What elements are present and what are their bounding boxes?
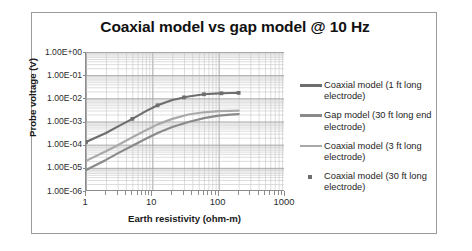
y-tick-mark: [83, 98, 86, 99]
x-tick-mark: [238, 191, 239, 195]
x-axis-label: Earth resistivity (ohm-m): [85, 213, 284, 224]
legend-line-icon: [300, 110, 322, 121]
x-tick-mark: [131, 191, 132, 195]
x-tick-mark: [171, 191, 172, 195]
series-marker-3: [237, 91, 241, 95]
legend-entry: Coaxial model (30 ft long electrode): [300, 171, 434, 193]
legend-label: Coaxial model (3 ft long electrode): [324, 141, 434, 163]
chart-title: Coaxial model vs gap model @ 10 Hz: [36, 18, 434, 36]
y-tick-label: 1.00E-02: [24, 93, 82, 103]
x-tick-mark: [207, 191, 208, 195]
legend-label: Coaxial model (30 ft long electrode): [324, 171, 434, 193]
series-marker-3: [86, 140, 88, 144]
y-tick-label: 1.00E-01: [24, 70, 82, 80]
x-tick-mark: [198, 191, 199, 195]
x-tick-mark: [191, 191, 192, 195]
x-tick-label: 1: [65, 196, 105, 207]
series-marker-3: [182, 95, 186, 99]
y-tick-mark: [83, 145, 86, 146]
legend-entry: Coaxial model (3 ft long electrode): [300, 141, 434, 163]
series-marker-3: [130, 117, 134, 121]
x-tick-mark: [258, 191, 259, 195]
x-tick-mark: [274, 191, 275, 195]
x-tick-label: 10: [131, 196, 171, 207]
x-tick-mark: [125, 191, 126, 195]
y-tick-mark: [83, 168, 86, 169]
y-axis-ticks: 1.00E+001.00E-011.00E-021.00E-031.00E-04…: [22, 0, 82, 251]
legend-marker-icon: [300, 171, 322, 182]
chart-figure: Coaxial model vs gap model @ 10 Hz Probe…: [0, 0, 472, 251]
x-tick-mark: [211, 191, 212, 195]
x-tick-mark: [269, 191, 270, 195]
legend-label: Gap model (30 ft long end electrode): [324, 110, 434, 132]
y-tick-label: 1.00E-06: [24, 186, 82, 196]
legend-entry: Coaxial model (1 ft long electrode): [300, 80, 434, 102]
series-marker-3: [202, 92, 206, 96]
x-tick-mark: [145, 191, 146, 195]
y-tick-mark: [83, 52, 86, 53]
legend-line-glyph: [300, 145, 322, 148]
x-tick-mark: [105, 191, 106, 195]
x-tick-mark: [183, 191, 184, 195]
legend-line-icon: [300, 80, 322, 91]
x-tick-mark: [278, 191, 279, 195]
plot-area: [85, 52, 284, 191]
x-tick-mark: [137, 191, 138, 195]
series-line-2: [86, 111, 239, 161]
x-tick-label: 1000: [264, 196, 304, 207]
data-series-layer: [86, 52, 284, 191]
chart-legend: Coaxial model (1 ft long electrode)Gap m…: [300, 80, 434, 202]
x-tick-label: 100: [198, 196, 238, 207]
x-tick-mark: [148, 191, 149, 195]
x-tick-mark: [249, 191, 250, 195]
x-tick-mark: [141, 191, 142, 195]
y-tick-mark: [83, 122, 86, 123]
series-marker-3: [156, 103, 160, 107]
series-line-0: [86, 93, 239, 142]
y-tick-label: 1.00E-03: [24, 116, 82, 126]
x-tick-mark: [85, 191, 86, 196]
x-tick-mark: [218, 191, 219, 196]
x-tick-mark: [215, 191, 216, 195]
x-tick-mark: [264, 191, 265, 195]
y-tick-label: 1.00E-05: [24, 162, 82, 172]
legend-line-glyph: [300, 114, 322, 117]
x-tick-mark: [151, 191, 152, 196]
x-tick-mark: [281, 191, 282, 195]
x-tick-mark: [117, 191, 118, 195]
x-tick-mark: [284, 191, 285, 196]
x-tick-mark: [203, 191, 204, 195]
legend-entry: Gap model (30 ft long end electrode): [300, 110, 434, 132]
series-marker-3: [220, 91, 224, 95]
legend-line-glyph: [300, 84, 322, 87]
legend-line-icon: [300, 141, 322, 152]
y-tick-label: 1.00E+00: [24, 47, 82, 57]
legend-square-marker-glyph: [308, 175, 312, 179]
y-tick-mark: [83, 75, 86, 76]
y-tick-label: 1.00E-04: [24, 139, 82, 149]
legend-label: Coaxial model (1 ft long electrode): [324, 80, 434, 102]
